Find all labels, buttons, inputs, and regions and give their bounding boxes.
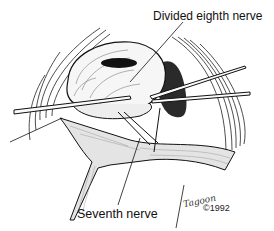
copyright-year: ©1992 [203,203,230,213]
tumor-mass [67,42,166,119]
label-seventh-nerve: Seventh nerve [77,208,158,221]
signature-vertical-line [176,185,184,228]
label-divided-eighth-nerve: Divided eighth nerve [153,10,262,22]
left-pointer-line [10,118,62,142]
tumor-opening [101,58,137,68]
surgical-illustration [0,0,274,231]
